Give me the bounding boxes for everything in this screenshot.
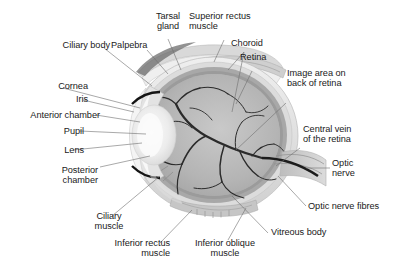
eye-anatomy-diagram: Ciliary body Palpebra Tarsal gland Super… — [0, 0, 403, 272]
label-anterior-chamber: Anterior chamber — [6, 110, 100, 120]
label-inferior-rectus-muscle: Inferior rectus muscle — [78, 238, 170, 259]
label-optic-nerve-fibres: Optic nerve fibres — [308, 201, 403, 211]
label-inferior-oblique-muscle: Inferior oblique muscle — [175, 238, 275, 259]
label-superior-rectus-muscle: Superior rectus muscle — [189, 11, 283, 32]
label-optic-nerve: Optic nerve — [332, 158, 390, 179]
label-tarsal-gland: Tarsal gland — [141, 11, 195, 32]
label-palpebra: Palpebra — [111, 40, 171, 50]
label-choroid: Choroid — [231, 38, 291, 48]
label-image-area-back-of-retina: Image area on back of retina — [287, 68, 397, 89]
label-lens: Lens — [6, 145, 84, 155]
label-ciliary-body: Ciliary body — [14, 40, 110, 50]
pupil-structure — [137, 113, 163, 157]
label-ciliary-muscle: Ciliary muscle — [78, 211, 140, 232]
label-pupil: Pupil — [6, 126, 84, 136]
label-vitreous-body: Vitreous body — [271, 227, 363, 237]
label-retina: Retina — [240, 52, 300, 62]
label-central-vein-of-the-retina: Central vein of the retina — [303, 124, 399, 145]
label-cornea: Cornea — [6, 81, 88, 91]
label-iris: Iris — [6, 94, 88, 104]
label-posterior-chamber: Posterior chamber — [6, 165, 98, 186]
